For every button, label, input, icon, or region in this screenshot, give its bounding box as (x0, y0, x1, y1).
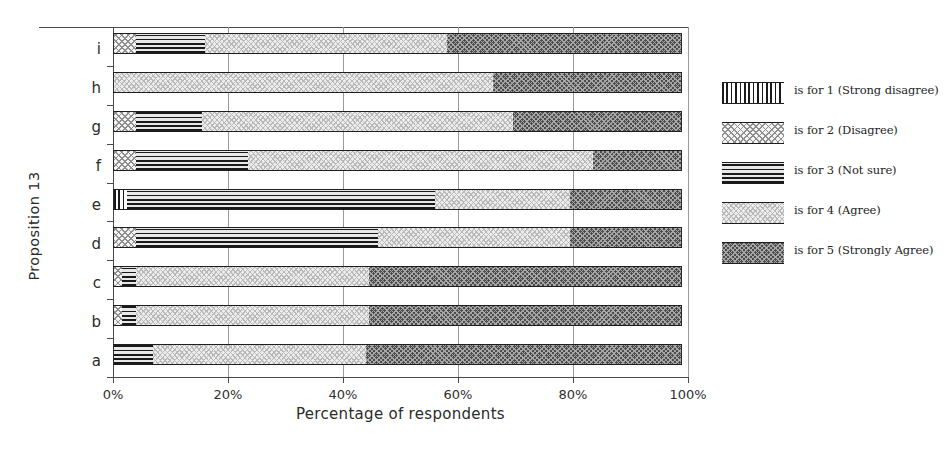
x-tick-100 (688, 377, 689, 383)
x-axis-title: Percentage of respondents (113, 405, 688, 423)
bar-segment-e-agree (435, 189, 570, 210)
bar-row-e (113, 189, 688, 210)
y-tick-b (107, 338, 113, 339)
bar-segment-g-disagree (113, 111, 136, 132)
bar-segment-d-agree (378, 227, 571, 248)
plot-top-rule (39, 27, 688, 28)
y-tick-d (107, 260, 113, 261)
x-tick-40 (343, 377, 344, 383)
plot-area: 0%20%40%60%80%100% ihgfedcba (113, 27, 688, 377)
gridline-100 (688, 27, 689, 377)
y-tick-label-e: e (63, 196, 101, 214)
bar-segment-h-strongly_agree (493, 72, 683, 93)
legend-label-3: is for 3 (Not sure) (794, 163, 897, 177)
bar-segment-d-not_sure (136, 227, 378, 248)
legend-label-5: is for 5 (Strongly Agree) (794, 243, 933, 257)
y-tick-label-h: h (63, 79, 101, 97)
bar-segment-f-not_sure (136, 150, 248, 171)
bar-row-c (113, 266, 688, 287)
bar-segment-h-agree (113, 72, 493, 93)
y-tick-c (107, 299, 113, 300)
y-tick-g (107, 144, 113, 145)
legend-swatch-zigzag-light-icon (722, 202, 784, 224)
y-tick-e (107, 221, 113, 222)
x-tick-80 (573, 377, 574, 383)
legend-label-4: is for 4 (Agree) (794, 203, 881, 217)
x-tick-0 (113, 377, 114, 383)
y-tick-h (107, 105, 113, 106)
bar-segment-a-strongly_agree (366, 344, 682, 365)
legend-item-5[interactable]: is for 5 (Strongly Agree) (722, 238, 938, 278)
x-tick-label-60: 60% (428, 387, 488, 402)
bar-segment-f-disagree (113, 150, 136, 171)
bar-segment-f-strongly_agree (593, 150, 682, 171)
legend-item-3[interactable]: is for 3 (Not sure) (722, 158, 938, 198)
x-axis-line (113, 377, 689, 378)
x-tick-label-80: 80% (543, 387, 603, 402)
bar-segment-d-disagree (113, 227, 136, 248)
bar-segment-d-strongly_agree (570, 227, 682, 248)
bar-segment-i-not_sure (136, 33, 205, 54)
bar-segment-i-disagree (113, 33, 136, 54)
y-axis-title: Proposition 13 (26, 96, 42, 356)
bar-segment-e-strongly_agree (570, 189, 682, 210)
legend-swatch-horizontal-lines-icon (722, 162, 784, 184)
bar-segment-b-agree (136, 305, 369, 326)
bar-segment-b-strongly_agree (369, 305, 682, 326)
bar-segment-g-not_sure (136, 111, 202, 132)
bar-segment-a-agree (153, 344, 366, 365)
legend-item-1[interactable]: is for 1 (Strong disagree) (722, 78, 938, 118)
y-axis-title-container: Proposition 13 (0, 100, 34, 360)
bar-segment-f-agree (248, 150, 593, 171)
chart-figure: Proposition 13 0%20%40%60%80%100% ihgfed… (0, 0, 944, 452)
y-tick-label-g: g (63, 118, 101, 136)
bar-segment-c-disagree (113, 266, 122, 287)
bar-segment-c-agree (136, 266, 369, 287)
bar-segment-i-strongly_agree (447, 33, 683, 54)
y-tick-f (107, 183, 113, 184)
bar-segment-b-not_sure (122, 305, 136, 326)
bar-row-g (113, 111, 688, 132)
x-tick-60 (458, 377, 459, 383)
legend-swatch-vertical-lines-icon (722, 82, 784, 104)
chart-legend: is for 1 (Strong disagree)is for 2 (Disa… (722, 78, 938, 278)
bar-row-h (113, 72, 688, 93)
legend-label-2: is for 2 (Disagree) (794, 123, 898, 137)
bar-segment-i-agree (205, 33, 447, 54)
x-tick-20 (228, 377, 229, 383)
y-tick-label-i: i (63, 40, 101, 58)
legend-label-1: is for 1 (Strong disagree) (794, 83, 939, 97)
legend-swatch-checkerboard-light-icon (722, 122, 784, 144)
bar-segment-b-disagree (113, 305, 122, 326)
bar-segment-a-not_sure (113, 344, 153, 365)
legend-item-2[interactable]: is for 2 (Disagree) (722, 118, 938, 158)
y-tick-label-f: f (63, 157, 101, 175)
bar-row-a (113, 344, 688, 365)
bar-row-i (113, 33, 688, 54)
legend-swatch-checkerboard-dark-icon (722, 242, 784, 264)
bar-segment-c-strongly_agree (369, 266, 682, 287)
bar-row-b (113, 305, 688, 326)
bar-segment-c-not_sure (122, 266, 136, 287)
y-tick-label-c: c (63, 274, 101, 292)
bar-segment-e-not_sure (127, 189, 435, 210)
bar-row-d (113, 227, 688, 248)
bar-segment-e-strong_disagree (113, 189, 127, 210)
legend-item-4[interactable]: is for 4 (Agree) (722, 198, 938, 238)
bar-row-f (113, 150, 688, 171)
y-tick-i (107, 66, 113, 67)
bar-segment-g-agree (202, 111, 513, 132)
y-tick-label-a: a (63, 352, 101, 370)
x-tick-label-100: 100% (658, 387, 718, 402)
y-tick-a (107, 377, 113, 378)
bar-segment-g-strongly_agree (513, 111, 683, 132)
x-tick-label-20: 20% (198, 387, 258, 402)
x-tick-label-0: 0% (83, 387, 143, 402)
x-tick-label-40: 40% (313, 387, 373, 402)
y-tick-label-d: d (63, 235, 101, 253)
y-tick-label-b: b (63, 313, 101, 331)
